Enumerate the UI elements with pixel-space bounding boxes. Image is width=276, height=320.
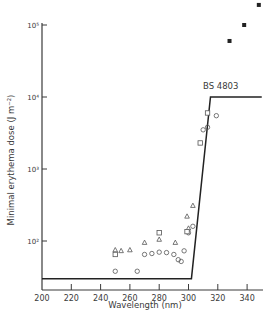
axes: 20022024026028030032034010⁵10⁴10³10² (27, 22, 263, 303)
filled-square-marker (257, 3, 261, 7)
x-tick-label: 220 (64, 294, 79, 303)
square-marker (113, 252, 117, 256)
triangle-marker (157, 237, 162, 241)
y-tick-label: 10⁴ (27, 94, 39, 102)
triangle-marker (113, 247, 118, 251)
circle-marker (135, 269, 139, 273)
triangle-marker (185, 214, 190, 218)
x-tick-label: 320 (210, 294, 225, 303)
x-tick-label: 200 (34, 294, 49, 303)
circle-marker (164, 250, 168, 254)
circle-marker (191, 224, 195, 228)
triangle-marker (173, 240, 178, 244)
erythema-dose-chart: 20022024026028030032034010⁵10⁴10³10² BS … (0, 0, 276, 320)
plot-area: BS 4803 (42, 3, 262, 279)
triangle-marker (119, 248, 124, 252)
filled-square-marker (242, 23, 246, 27)
circle-marker (142, 252, 146, 256)
circle-marker (182, 249, 186, 253)
triangle-marker (142, 240, 147, 244)
x-tick-label: 300 (181, 294, 196, 303)
square-marker (205, 111, 209, 115)
triangle-marker (128, 247, 133, 251)
circle-marker (113, 269, 117, 273)
triangle-marker (191, 203, 196, 207)
x-tick-label: 340 (239, 294, 254, 303)
circle-marker (157, 250, 161, 254)
circle-marker (172, 252, 176, 256)
bs4803-annotation: BS 4803 (203, 81, 238, 91)
square-marker (185, 229, 189, 233)
square-marker (198, 141, 202, 145)
y-tick-label: 10³ (27, 166, 39, 174)
square-marker (157, 231, 161, 235)
circle-marker (201, 128, 205, 132)
x-tick-label: 240 (93, 294, 108, 303)
circle-marker (150, 251, 154, 255)
y-axis-label: Minimal erythema dose (J m⁻²) (6, 95, 16, 226)
y-tick-label: 10⁵ (27, 22, 39, 30)
circle-marker (214, 113, 218, 117)
filled-square-marker (228, 39, 232, 43)
y-tick-label: 10² (27, 238, 39, 246)
x-axis-label: Wavelength (nm) (108, 300, 181, 310)
